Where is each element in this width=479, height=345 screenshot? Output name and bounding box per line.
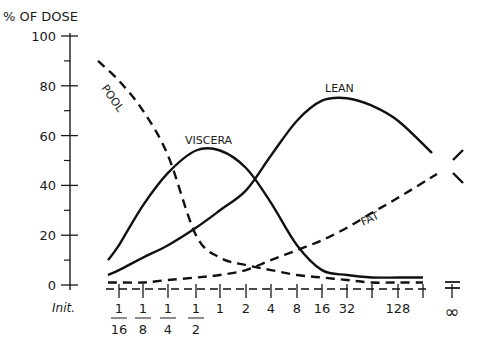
curves bbox=[98, 61, 463, 283]
x-label-numerator: 1 bbox=[115, 301, 123, 316]
x-label-init: Init. bbox=[52, 301, 75, 315]
lean-label: LEAN bbox=[325, 82, 354, 95]
y-tick-label: 0 bbox=[48, 278, 56, 293]
y-tick-label: 100 bbox=[31, 29, 56, 44]
x-label-denominator: 2 bbox=[192, 322, 200, 337]
x-label-denominator: 16 bbox=[111, 322, 128, 337]
y-axis-ticks: 020406080100 bbox=[31, 29, 78, 293]
x-tick-label: ∞ bbox=[445, 301, 460, 322]
x-label-numerator: 1 bbox=[192, 301, 200, 316]
chart-canvas: % OF DOSE 020406080100 Init.116181412124… bbox=[0, 0, 479, 345]
y-tick-label: 80 bbox=[39, 79, 56, 94]
x-label-numerator: 1 bbox=[164, 301, 172, 316]
viscera-label: VISCERA bbox=[185, 134, 233, 147]
y-axis-title: % OF DOSE bbox=[3, 9, 78, 24]
x-label-denominator: 8 bbox=[139, 322, 147, 337]
fat-label: FAT bbox=[359, 209, 382, 229]
fat-infinity-mark bbox=[453, 150, 463, 160]
x-tick-label: 16 bbox=[314, 301, 331, 316]
x-label-denominator: 4 bbox=[164, 322, 172, 337]
y-tick-label: 40 bbox=[39, 178, 56, 193]
x-tick-label: 128 bbox=[386, 301, 411, 316]
x-tick-label: 4 bbox=[267, 301, 275, 316]
x-axis: Init.11618141212481632128∞ bbox=[52, 282, 460, 337]
fat-curve bbox=[108, 174, 437, 283]
pool-label: POOL bbox=[99, 82, 127, 115]
y-tick-label: 20 bbox=[39, 228, 56, 243]
x-tick-label: 2 bbox=[242, 301, 250, 316]
x-tick-label: 1 bbox=[216, 301, 224, 316]
x-tick-label: 32 bbox=[339, 301, 356, 316]
y-tick-label: 60 bbox=[39, 129, 56, 144]
x-label-numerator: 1 bbox=[139, 301, 147, 316]
lean-infinity-mark bbox=[453, 173, 463, 183]
x-tick-label: 8 bbox=[293, 301, 301, 316]
